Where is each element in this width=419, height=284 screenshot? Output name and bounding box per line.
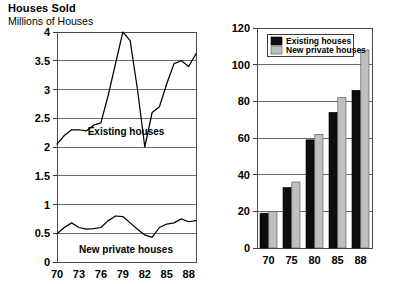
x-axis-tick-label: 88 (354, 254, 366, 266)
y-axis-tick-label: 2 (44, 141, 50, 153)
y-axis-tick-label: 100 (232, 59, 250, 71)
bar-existing-houses-88 (352, 90, 360, 248)
bar-chart-panel: 0204060801001207075808588Existing houses… (210, 0, 419, 284)
page-title: Houses Sold (8, 2, 93, 15)
x-axis-tick-label: 85 (331, 254, 343, 266)
x-axis-tick-label: 79 (117, 268, 129, 280)
y-axis-tick-label: 3 (44, 84, 50, 96)
bar-existing-houses-75 (283, 188, 291, 249)
y-axis-tick-label: 20 (238, 205, 250, 217)
x-axis-tick-label: 70 (262, 254, 274, 266)
y-axis-tick-label: 120 (232, 22, 250, 34)
series-label-new-private-houses: New private houses (79, 244, 173, 255)
y-axis-tick-label: 0.5 (35, 227, 50, 239)
bar-chart-svg: 0204060801001207075808588Existing houses… (210, 0, 419, 284)
x-axis-tick-label: 85 (161, 268, 173, 280)
y-axis-tick-label: 80 (238, 95, 250, 107)
bar-existing-houses-70 (260, 213, 268, 248)
x-axis-tick-label: 80 (308, 254, 320, 266)
line-chart-svg: 00.511.522.533.5470737679828588Existing … (0, 0, 210, 284)
y-axis-tick-label: 0 (44, 256, 50, 268)
x-axis-tick-label: 70 (51, 268, 63, 280)
x-axis-tick-label: 76 (95, 268, 107, 280)
chart-subtitle: Millions of Houses (8, 15, 93, 28)
legend-swatch-new-private-houses (271, 46, 282, 54)
title-block: Houses Sold Millions of Houses (8, 2, 93, 28)
x-axis-tick-label: 88 (183, 268, 195, 280)
y-axis-tick-label: 0 (244, 242, 250, 254)
bar-new-private-houses-70 (269, 211, 277, 248)
bar-new-private-houses-85 (338, 98, 346, 248)
y-axis-tick-label: 2.5 (35, 112, 50, 124)
legend-swatch-existing-houses (271, 37, 282, 45)
chart-page: Houses Sold Millions of Houses 00.511.52… (0, 0, 419, 284)
bar-new-private-houses-75 (292, 182, 300, 248)
line-chart-panel: Houses Sold Millions of Houses 00.511.52… (0, 0, 210, 284)
y-axis-tick-label: 1.5 (35, 170, 50, 182)
y-axis-tick-label: 60 (238, 132, 250, 144)
line-series-new-private-houses (57, 216, 196, 237)
bar-existing-houses-85 (329, 112, 337, 248)
bar-existing-houses-80 (306, 140, 314, 248)
bar-new-private-houses-88 (361, 50, 369, 248)
y-axis-tick-label: 1 (44, 199, 50, 211)
x-axis-tick-label: 73 (73, 268, 85, 280)
y-axis-tick-label: 40 (238, 169, 250, 181)
x-axis-tick-label: 82 (139, 268, 151, 280)
legend-label-new-private-houses: New private houses (286, 45, 366, 55)
y-axis-tick-label: 3.5 (35, 55, 50, 67)
x-axis-tick-label: 75 (285, 254, 297, 266)
bar-new-private-houses-80 (315, 134, 323, 248)
series-label-existing-houses: Existing houses (88, 126, 165, 137)
